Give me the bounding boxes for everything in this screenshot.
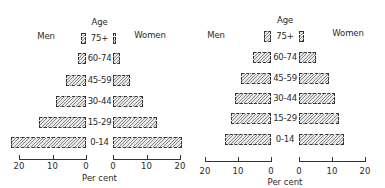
x-axis-title: Per cent [268, 177, 303, 187]
age-group-label: 45-59 [273, 73, 297, 83]
men-label: Men [207, 30, 225, 40]
age-group-label: 30-44 [88, 96, 112, 106]
bar-women [113, 53, 120, 64]
bar-women [299, 31, 304, 42]
bar-women [299, 93, 335, 104]
bar-men [225, 134, 271, 145]
population-pyramid-right: AgeMenWomen75+60-7445-5930-4415-290-1420… [192, 0, 385, 188]
bar-women [299, 113, 339, 124]
x-tick [332, 157, 333, 162]
x-tick-label: 0 [110, 161, 115, 171]
men-label: Men [37, 31, 55, 41]
bar-men [11, 137, 86, 148]
bar-men [78, 53, 86, 64]
x-tick [19, 155, 20, 160]
age-group-label: 45-59 [88, 75, 112, 85]
x-tick-label: 20 [14, 161, 25, 171]
bar-men [39, 117, 86, 128]
age-group-label: 60-74 [273, 52, 297, 62]
age-group-label: 75+ [276, 31, 293, 41]
x-tick [147, 155, 148, 160]
women-label: Women [134, 30, 166, 40]
age-group-label: 15-29 [273, 113, 297, 123]
bar-women [113, 33, 116, 44]
x-tick-label: 10 [141, 161, 152, 171]
x-tick [271, 157, 272, 162]
x-tick [53, 155, 54, 160]
x-tick-label: 20 [200, 166, 211, 176]
bar-women [113, 137, 182, 148]
bar-women [113, 75, 130, 86]
x-tick [365, 157, 366, 162]
bar-women [299, 73, 329, 84]
age-group-label: 0-14 [276, 134, 295, 144]
bar-women [113, 117, 157, 128]
bar-men [231, 113, 271, 124]
bar-men [253, 52, 271, 63]
bar-men [56, 96, 86, 107]
x-tick [238, 157, 239, 162]
age-group-label: 15-29 [88, 117, 112, 127]
x-axis-title: Per cent [82, 173, 117, 183]
bar-men [235, 93, 271, 104]
age-axis-title: Age [277, 15, 293, 25]
x-tick [299, 157, 300, 162]
x-tick-label: 10 [233, 166, 244, 176]
x-tick-label: 0 [83, 161, 88, 171]
women-label: Women [332, 28, 364, 38]
bar-women [299, 134, 344, 145]
bar-men [264, 31, 271, 42]
bar-men [81, 33, 86, 44]
x-tick [86, 155, 87, 160]
x-tick-label: 0 [296, 166, 301, 176]
x-tick-label: 10 [327, 166, 338, 176]
x-tick [113, 155, 114, 160]
age-group-label: 60-74 [88, 53, 112, 63]
x-tick [180, 155, 181, 160]
bar-women [299, 52, 316, 63]
x-tick-label: 0 [268, 166, 273, 176]
bar-men [241, 73, 271, 84]
bar-women [113, 96, 143, 107]
x-tick-label: 20 [175, 161, 186, 171]
age-group-label: 0-14 [90, 137, 109, 147]
bar-men [66, 75, 86, 86]
age-group-label: 75+ [91, 33, 108, 43]
age-axis-title: Age [91, 17, 107, 27]
x-tick-label: 20 [360, 166, 371, 176]
population-pyramid-left: AgeMenWomen75+60-7445-5930-4415-290-1420… [0, 0, 192, 188]
age-group-label: 30-44 [273, 93, 297, 103]
x-tick-label: 10 [47, 161, 58, 171]
x-tick [205, 157, 206, 162]
